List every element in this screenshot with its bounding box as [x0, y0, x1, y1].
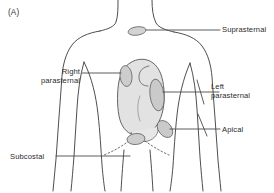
costal-margin-left-dotted [104, 141, 129, 155]
probe-subcostal[interactable] [126, 133, 145, 146]
neck-left-outline [100, 0, 118, 31]
label-apical: Apical [222, 125, 243, 134]
costal-margin-right-dotted [145, 141, 169, 155]
label-right-parasternal: Rightparasternal [18, 67, 80, 85]
label-right-parasternal-line1: Right [62, 67, 80, 76]
label-left-parasternal-line2: parasternal [211, 91, 250, 100]
abdomen-midline-right-outline [150, 150, 153, 191]
leader-tick-apical [198, 114, 207, 136]
neck-right-outline [152, 0, 174, 32]
label-left-parasternal: Leftparasternal [211, 82, 250, 100]
torso-flank-right-outline [170, 63, 190, 191]
label-suprasternal: Suprasternal [222, 25, 266, 34]
armpit-right-outline [190, 63, 203, 191]
torso-flank-left-outline [84, 62, 105, 191]
panel-label: (A) [8, 8, 19, 17]
label-left-parasternal-line1: Left [211, 82, 224, 91]
figure-panel-a: (A) Suprasternal Rightparasternal Leftpa… [0, 0, 274, 193]
label-right-parasternal-line2: parasternal [41, 76, 80, 85]
probe-suprasternal[interactable] [128, 26, 147, 37]
label-subcostal: Subcostal [10, 152, 44, 161]
